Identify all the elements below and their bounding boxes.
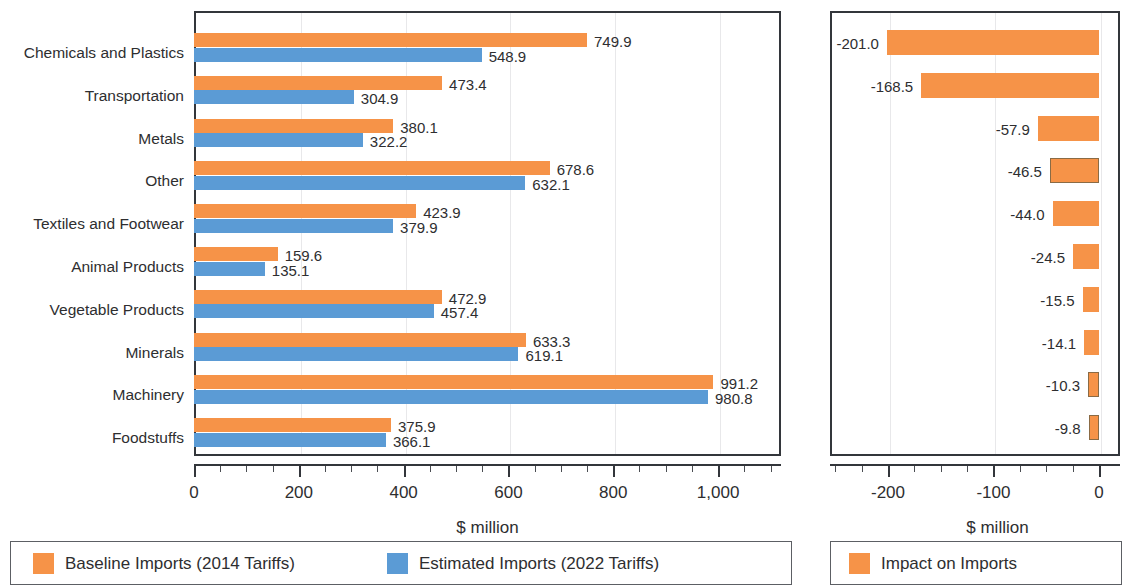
right-legend: Impact on Imports [830, 541, 1122, 585]
axis-tick-minor [914, 466, 915, 472]
axis-line [830, 464, 1120, 466]
axis-tick-major [1099, 466, 1101, 477]
axis-tick-minor [835, 466, 836, 472]
bar-impact[interactable] [1053, 201, 1099, 226]
bar-value-label: -14.1 [1042, 336, 1076, 351]
bar-value-label: -44.0 [1010, 207, 1044, 222]
bar-value-label: -15.5 [1040, 293, 1074, 308]
x-tick-label: 0 [1094, 484, 1103, 501]
bar-impact[interactable] [1073, 244, 1099, 269]
bar-value-label: -201.0 [836, 36, 879, 51]
legend-item-impact-on-imports[interactable]: Impact on Imports [849, 553, 1017, 574]
bar-value-label: -24.5 [1031, 250, 1065, 265]
bar-value-label: -46.5 [1008, 164, 1042, 179]
legend-label-impact: Impact on Imports [881, 555, 1017, 572]
axis-tick-minor [1046, 466, 1047, 472]
axis-tick-minor [1020, 466, 1021, 472]
axis-tick-minor [862, 466, 863, 472]
bar-impact[interactable] [1089, 415, 1099, 440]
bar-impact[interactable] [887, 30, 1099, 55]
bar-impact[interactable] [1050, 158, 1099, 183]
x-tick-label: -100 [976, 484, 1010, 501]
bar-value-label: -57.9 [996, 122, 1030, 137]
x-tick-label: -200 [871, 484, 905, 501]
axis-tick-minor [1073, 466, 1074, 472]
bar-impact[interactable] [1088, 372, 1099, 397]
bar-chart-impact-on-imports: -201.0-168.5-57.9-46.5-44.0-24.5-15.5-14… [0, 0, 1122, 587]
legend-swatch-orange-icon [849, 553, 870, 574]
right-axis-title: $ million [966, 519, 1028, 536]
bar-value-label: -10.3 [1046, 378, 1080, 393]
bar-impact[interactable] [921, 73, 1099, 98]
bar-value-label: -168.5 [871, 79, 914, 94]
bar-impact[interactable] [1084, 330, 1099, 355]
gridline [1101, 13, 1102, 454]
axis-tick-major [993, 466, 995, 477]
bar-impact[interactable] [1083, 287, 1099, 312]
axis-tick-minor [967, 466, 968, 472]
bar-value-label: -9.8 [1055, 421, 1081, 436]
bar-impact[interactable] [1038, 116, 1099, 141]
axis-tick-minor [941, 466, 942, 472]
axis-tick-major [888, 466, 890, 477]
